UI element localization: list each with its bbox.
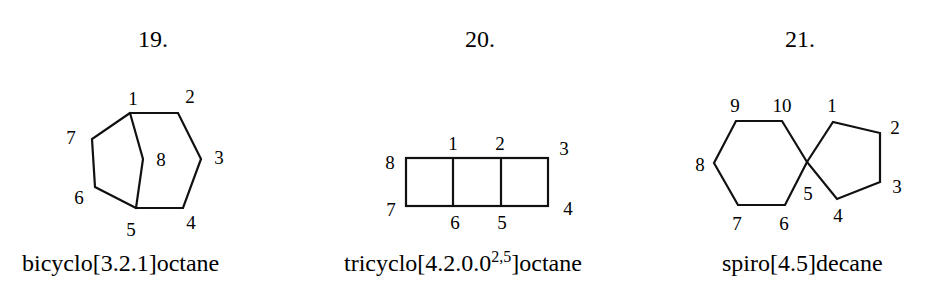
atom-label: 2 (185, 86, 195, 107)
atom-label: 5 (126, 219, 136, 240)
atom-label: 4 (186, 212, 196, 233)
figure-19: 19. 1 2 3 4 5 6 7 8 bicyclo[3.2.1]octane (22, 26, 224, 276)
six-membered-ring (714, 121, 807, 205)
atom-label: 5 (497, 212, 507, 233)
atom-label: 6 (450, 212, 460, 233)
atom-label: 3 (892, 176, 902, 197)
structure-bicyclooctane (92, 113, 201, 208)
compound-name: tricyclo[4.2.0.02,5]octane (344, 248, 582, 276)
atom-label: 10 (773, 95, 792, 116)
atom-label: 1 (827, 95, 837, 116)
atom-label: 8 (385, 152, 395, 173)
two-carbon-bridge (92, 113, 136, 208)
one-carbon-bridge (130, 113, 143, 208)
atom-label: 8 (156, 149, 166, 170)
atom-labels: 1 2 3 4 5 6 7 8 (385, 133, 573, 233)
atom-label: 2 (890, 117, 900, 138)
atom-label: 7 (386, 199, 396, 220)
figure-21: 21. 1 2 3 4 5 6 7 8 9 10 spiro[4.5]decan… (695, 26, 902, 276)
figure-number: 20. (465, 26, 495, 52)
atom-label: 9 (730, 95, 740, 116)
atom-label: 4 (833, 205, 843, 226)
figure-number: 19. (138, 26, 168, 52)
atom-label: 7 (66, 127, 76, 148)
atom-label: 8 (695, 154, 705, 175)
outer-ring (406, 158, 548, 206)
figure-number: 21. (785, 26, 815, 52)
compound-name: spiro[4.5]decane (722, 250, 883, 276)
atom-label: 7 (732, 213, 742, 234)
atom-label: 3 (559, 138, 569, 159)
five-membered-ring (807, 122, 880, 199)
atom-labels: 1 2 3 4 5 6 7 8 9 10 (695, 95, 902, 234)
figure-20: 20. 1 2 3 4 5 6 7 8 tricyclo[4.2.0.02,5]… (344, 26, 582, 276)
atom-label: 1 (128, 88, 138, 109)
atom-label: 2 (495, 133, 505, 154)
atom-label: 6 (74, 187, 84, 208)
compound-name: bicyclo[3.2.1]octane (22, 250, 219, 276)
structure-tricyclooctane (406, 158, 548, 206)
structure-spirodecane (714, 121, 880, 205)
atom-label: 3 (214, 147, 224, 168)
atom-label: 4 (563, 198, 573, 219)
atom-label: 5 (803, 183, 813, 204)
atom-label: 1 (448, 133, 458, 154)
nomenclature-figure: 19. 1 2 3 4 5 6 7 8 bicyclo[3.2.1]octane… (0, 0, 935, 292)
atom-label: 6 (779, 213, 789, 234)
